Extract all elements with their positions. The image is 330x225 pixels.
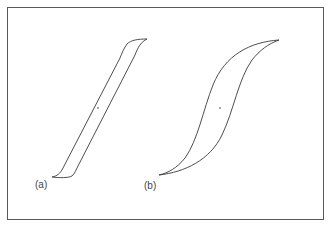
center-dot-b <box>219 107 221 109</box>
hysteresis-loop-b <box>159 40 279 175</box>
hysteresis-diagram <box>0 0 330 225</box>
center-dot-a <box>97 107 99 109</box>
hysteresis-loop-a <box>52 39 147 178</box>
label-a: (a) <box>35 180 47 190</box>
label-b: (b) <box>144 181 156 191</box>
